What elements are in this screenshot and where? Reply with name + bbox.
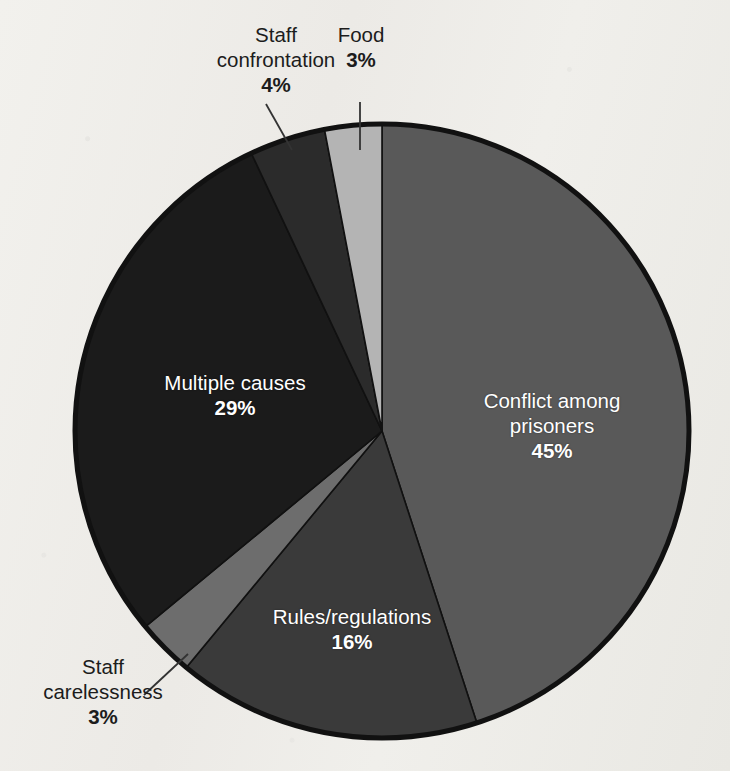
slice-label-rules-regulations: Rules/regulations 16%	[252, 604, 452, 654]
slice-label-line1: Multiple causes	[164, 371, 305, 394]
slice-label-line2: carelessness	[43, 680, 163, 703]
slice-label-line1: Food	[338, 23, 385, 46]
slice-label-staff-carelessness: Staff carelessness 3%	[8, 654, 198, 729]
slice-label-multiple-causes: Multiple causes 29%	[128, 370, 342, 420]
slice-label-line1: Staff	[255, 23, 297, 46]
slice-label-line2: prisoners	[510, 414, 594, 437]
slice-label-line1: Conflict among	[484, 389, 621, 412]
slice-percent: 4%	[176, 72, 376, 97]
slice-percent: 3%	[8, 704, 198, 729]
slice-label-food: Food 3%	[303, 22, 419, 72]
slice-label-conflict-among-prisoners: Conflict among prisoners 45%	[452, 388, 652, 463]
slice-percent: 45%	[452, 438, 652, 463]
slice-percent: 16%	[252, 629, 452, 654]
pie-chart: Staff confrontation 4% Food 3% Staff car…	[0, 0, 730, 771]
slice-percent: 3%	[303, 47, 419, 72]
slice-label-line1: Staff	[82, 655, 124, 678]
slice-label-line1: Rules/regulations	[273, 605, 431, 628]
slice-percent: 29%	[128, 395, 342, 420]
